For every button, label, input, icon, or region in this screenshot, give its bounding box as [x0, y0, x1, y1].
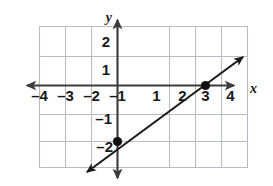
- y-axis-name: y: [104, 10, 113, 25]
- point-y-intercept: [113, 137, 122, 146]
- x-tick-label--1: –1: [109, 87, 126, 104]
- x-tick-label-2: 2: [178, 87, 186, 104]
- coordinate-graph-figure: –4 –3 –2 –1 1 2 3 4 2 1 –1 –2 y x: [0, 0, 273, 186]
- x-tick-label--4: –4: [31, 87, 48, 104]
- y-tick-label-1: 1: [102, 61, 110, 78]
- y-tick-label--2: –2: [96, 138, 113, 155]
- x-tick-label-3: 3: [201, 87, 209, 104]
- coordinate-plane-svg: –4 –3 –2 –1 1 2 3 4 2 1 –1 –2 y x: [0, 0, 273, 186]
- x-tick-label--3: –3: [57, 87, 74, 104]
- x-axis-name: x: [249, 81, 257, 96]
- y-tick-label-2: 2: [102, 33, 110, 50]
- y-tick-label--1: –1: [95, 110, 112, 127]
- x-tick-label-4: 4: [226, 87, 235, 104]
- x-tick-label-1: 1: [152, 87, 160, 104]
- x-tick-label--2: –2: [83, 87, 100, 104]
